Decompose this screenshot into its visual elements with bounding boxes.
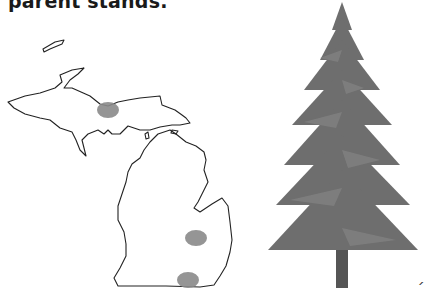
michigan-map — [0, 30, 260, 293]
isle-royale — [43, 40, 64, 52]
conifer-tree-illustration — [260, 0, 425, 293]
stand-marker-southeast — [177, 272, 199, 288]
lower-peninsula-outline — [114, 130, 232, 287]
stand-marker-thumb — [185, 230, 207, 246]
caption-text: parent stands. — [8, 0, 168, 12]
stand-marker-upper-peninsula — [97, 102, 119, 118]
corner-mark: ´ — [415, 280, 423, 293]
beaver-island — [145, 132, 149, 139]
